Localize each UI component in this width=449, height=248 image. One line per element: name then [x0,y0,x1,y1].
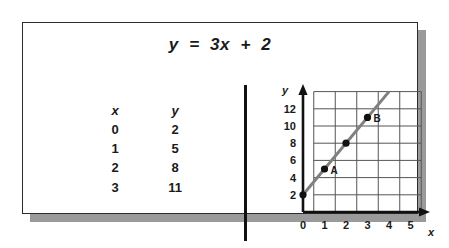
y-tick-label: 4 [290,172,297,184]
cell-x: 0 [85,120,145,139]
axes [298,84,430,217]
x-tick-label: 3 [364,219,370,231]
data-point-marker [364,114,371,121]
y-tick-label: 12 [284,103,296,115]
cell-x: 1 [85,139,145,158]
x-axis-arrow-icon [419,207,430,216]
coordinate-graph: 01234524681012 AB y x [273,81,441,243]
data-point-marker [299,191,306,198]
y-axis-arrow-icon [298,84,307,95]
point-annotations: AB [331,113,381,176]
cell-x: 3 [85,178,145,197]
point-label: B [374,113,381,124]
table-row: 3 11 [85,178,205,197]
y-tick-label: 6 [290,154,296,166]
cell-x: 2 [85,158,145,177]
table-row: 2 8 [85,158,205,177]
cell-y: 2 [145,120,205,139]
x-tick-label: 1 [321,219,327,231]
cell-y: 8 [145,158,205,177]
cell-y: 5 [145,139,205,158]
table-row: 1 5 [85,139,205,158]
data-point-marker [321,165,328,172]
column-header-x: x [85,101,145,120]
data-point-marker [342,140,349,147]
column-header-y: y [145,101,205,120]
point-label: A [331,165,338,176]
x-axis-label: x [427,226,435,238]
cell-y: 11 [145,178,205,197]
lesson-card: y = 3x + 2 x y 0 2 1 5 [22,22,418,214]
y-tick-label: 10 [284,120,296,132]
y-tick-label: 8 [290,137,296,149]
x-tick-label: 0 [300,219,306,231]
vertical-divider [244,85,247,241]
slide-canvas: y = 3x + 2 x y 0 2 1 5 [0,0,449,248]
x-tick-label: 5 [407,219,413,231]
equation-title: y = 3x + 2 [23,35,417,55]
y-tick-label: 2 [290,189,296,201]
value-table: x y 0 2 1 5 2 8 [85,101,205,197]
table-header-row: x y [85,101,205,120]
table-row: 0 2 [85,120,205,139]
grid-lines [314,92,422,212]
x-tick-label: 4 [386,219,393,231]
y-axis-label: y [281,84,289,96]
x-tick-label: 2 [343,219,349,231]
